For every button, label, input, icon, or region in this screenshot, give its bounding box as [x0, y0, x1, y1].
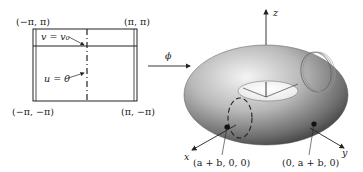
point-y-label: (0, a + b, 0)	[282, 158, 339, 168]
corner-bottom-right-label: (π, −π)	[121, 107, 155, 117]
mapping-phi-label: ϕ	[165, 51, 171, 61]
y-axis	[310, 128, 344, 148]
x-axis-label: x	[184, 152, 189, 162]
torus	[184, 10, 348, 155]
point-x-label: (a + b, 0, 0)	[193, 158, 250, 168]
z-axis-label: z	[273, 8, 278, 18]
corner-top-left-label: (−π, π)	[16, 17, 50, 27]
corner-top-right-label: (π, π)	[124, 17, 150, 27]
y-axis-label: y	[342, 148, 347, 158]
v-equals-v0-label: v = v₀	[41, 32, 70, 42]
u-equals-0-label: u = 0	[44, 74, 70, 84]
diagram-canvas	[0, 0, 363, 172]
corner-bottom-left-label: (−π, −π)	[12, 107, 54, 117]
